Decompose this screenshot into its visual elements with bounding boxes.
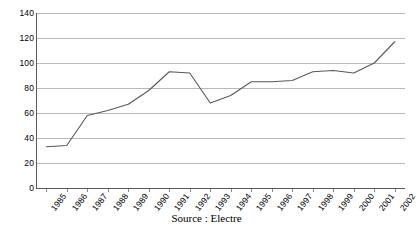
line-series-path [46,42,395,147]
line-series [0,0,413,200]
plot-area: 020406080100120140 198519861987198819891… [0,0,413,200]
chart-caption: Source : Electre [0,212,413,224]
